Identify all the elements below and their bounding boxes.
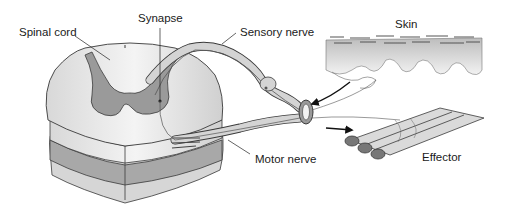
spinal-nerve-cut-end [299,100,313,124]
sensory-direction-arrow [312,82,350,104]
motor-direction-arrow [326,128,352,130]
reflex-arc-diagram: Spinal cord Synapse Sensory nerve Skin M… [0,0,508,211]
dorsal-root-ganglion [260,77,276,91]
label-spinal-cord: Spinal cord [19,26,77,38]
label-motor-nerve: Motor nerve [255,153,316,165]
label-effector: Effector [422,151,461,163]
label-sensory-nerve: Sensory nerve [240,26,314,38]
skin [326,36,482,88]
label-synapse: Synapse [138,12,183,24]
label-skin: Skin [395,18,417,30]
effector-muscle [345,108,484,159]
spinal-cord [46,43,223,146]
